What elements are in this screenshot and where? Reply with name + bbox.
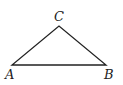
triangle-abc: [12, 26, 106, 65]
vertex-label-a: A: [4, 67, 14, 82]
triangle-diagram: C A B: [0, 0, 123, 85]
vertex-label-b: B: [103, 67, 114, 82]
vertex-label-c: C: [54, 9, 64, 24]
